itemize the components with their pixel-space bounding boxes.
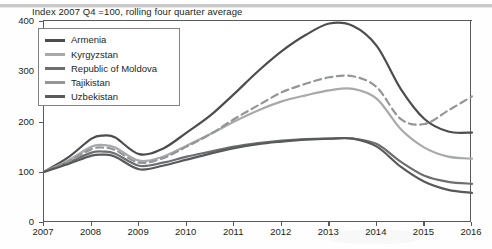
y-axis-tick	[39, 122, 43, 123]
x-axis-tick	[91, 222, 92, 226]
x-axis-tick	[328, 222, 329, 226]
legend-item-republic-of-moldova: Republic of Moldova	[39, 61, 179, 75]
x-axis-tick-label: 2007	[23, 226, 63, 237]
legend-item-tajikistan: Tajikistan	[39, 76, 179, 90]
x-axis-tick	[233, 222, 234, 226]
x-axis-tick	[281, 222, 282, 226]
legend-item-uzbekistan: Uzbekistan	[39, 90, 179, 104]
chart-legend: ArmeniaKyrgyzstanRepublic of MoldovaTaji…	[38, 28, 180, 106]
x-axis-tick	[471, 222, 472, 226]
legend-label: Republic of Moldova	[71, 64, 157, 74]
y-axis-tick-label: 100	[8, 166, 34, 177]
x-axis-tick-label: 2011	[213, 226, 253, 237]
legend-label: Kyrgyzstan	[71, 50, 118, 60]
legend-label: Tajikistan	[71, 78, 110, 88]
x-axis-tick	[423, 222, 424, 226]
chart-title: Index 2007 Q4 =100, rolling four quarter…	[32, 6, 243, 17]
y-axis-tick-label: 200	[8, 116, 34, 127]
x-axis-tick	[138, 222, 139, 226]
y-axis-tick	[39, 172, 43, 173]
x-axis-tick-label: 2008	[71, 226, 111, 237]
x-axis-tick	[186, 222, 187, 226]
x-axis-tick	[43, 222, 44, 226]
y-axis-tick	[39, 21, 43, 22]
x-axis-tick-label: 2016	[451, 226, 491, 237]
x-axis-tick-label: 2012	[261, 226, 301, 237]
x-axis-tick-label: 2013	[308, 226, 348, 237]
chart-screenshot: Index 2007 Q4 =100, rolling four quarter…	[0, 0, 492, 249]
legend-item-kyrgyzstan: Kyrgyzstan	[39, 47, 179, 61]
legend-label: Uzbekistan	[71, 92, 118, 102]
x-axis-tick-label: 2009	[118, 226, 158, 237]
x-axis-tick-label: 2010	[166, 226, 206, 237]
x-axis-tick-label: 2014	[356, 226, 396, 237]
y-axis-tick-label: 400	[8, 15, 34, 26]
legend-item-armenia: Armenia	[39, 33, 179, 47]
x-axis-tick-label: 2015	[403, 226, 443, 237]
x-axis-tick	[376, 222, 377, 226]
legend-label: Armenia	[71, 35, 106, 45]
y-axis-tick-label: 300	[8, 65, 34, 76]
